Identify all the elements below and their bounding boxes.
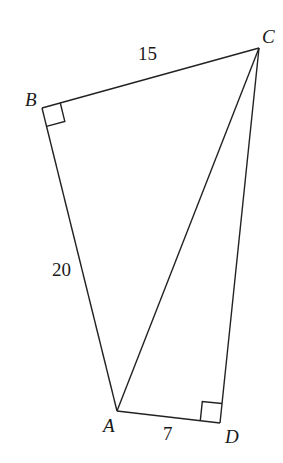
segment-dc — [220, 48, 259, 423]
segment-ac — [117, 48, 259, 411]
length-label-ad: 7 — [163, 423, 173, 444]
geometry-diagram: B C A D 15 20 7 — [0, 0, 283, 463]
vertex-label-d: D — [224, 426, 239, 447]
vertex-label-c: C — [262, 26, 275, 47]
vertex-label-b: B — [25, 89, 37, 110]
vertex-label-a: A — [101, 415, 115, 436]
length-label-bc: 15 — [138, 43, 157, 64]
segment-ad — [117, 411, 220, 423]
right-angle-marker-d — [200, 402, 222, 421]
length-label-ab: 20 — [52, 259, 71, 280]
